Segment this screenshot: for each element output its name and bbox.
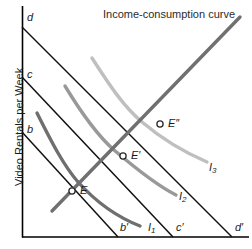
x-intercept-label-b-prime: b′ <box>120 222 128 233</box>
point-label-E-double-prime: E″ <box>168 118 179 129</box>
point-label-E: E <box>80 185 87 196</box>
income-consumption-chart: Income-consumption curve Video Rentals p… <box>0 0 252 249</box>
indifference-curve-label-i3: I3 <box>209 162 217 175</box>
indifference-curve-label-i1: I1 <box>148 222 156 235</box>
curve-subscript-i2: 2 <box>182 195 186 204</box>
x-intercept-label-c-prime: c′ <box>176 222 184 233</box>
budget-line-bb-prime <box>22 132 118 237</box>
x-intercept-label-d-prime: d′ <box>235 222 243 233</box>
chart-title: Income-consumption curve <box>103 8 235 20</box>
indifference-curve-label-i2: I2 <box>179 191 187 204</box>
chart-canvas <box>0 0 252 249</box>
curve-subscript-i1: 1 <box>151 226 155 235</box>
y-intercept-label-c: c <box>27 69 33 80</box>
y-intercept-label-b: b <box>27 124 33 135</box>
y-intercept-label-d: d <box>27 12 33 23</box>
point-marker-E <box>69 188 75 194</box>
y-axis-title: Video Rentals per Week <box>13 68 25 186</box>
curve-subscript-i3: 3 <box>212 166 216 175</box>
point-marker-E-prime <box>120 153 126 159</box>
income-consumption-curve-line <box>52 17 240 211</box>
point-label-E-prime: E′ <box>131 150 140 161</box>
point-marker-E-double-prime <box>157 121 163 127</box>
